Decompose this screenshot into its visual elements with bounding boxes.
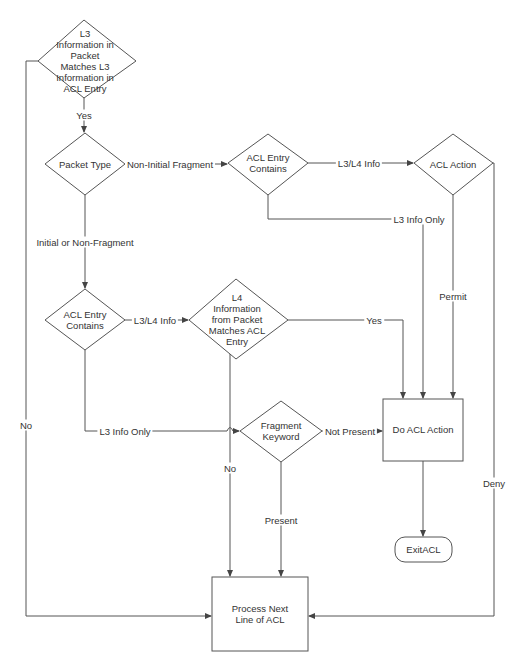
edge-label-l3-info-only-mid: L3 Info Only xyxy=(97,426,152,437)
edge-label-no-left: No xyxy=(18,420,34,431)
l3-match-label: L3 Information in Packet Matches L3 Info… xyxy=(56,36,114,86)
edge-l3-info-only-mid xyxy=(85,350,239,431)
do-acl-action-label: Do ACL Action xyxy=(383,421,463,437)
edge-label-l4-no: No xyxy=(222,463,238,474)
edge-label-non-initial-fragment: Non-Initial Fragment xyxy=(125,159,215,170)
packet-type-label: Packet Type xyxy=(55,156,115,172)
exit-acl-label: ExitACL xyxy=(395,541,452,557)
edge-label-l3l4-info-mid: L3/L4 Info xyxy=(132,315,178,326)
edge-label-l4-yes: Yes xyxy=(364,315,384,326)
edge-l4-yes xyxy=(288,320,403,398)
acl-entry-contains-top-label: ACL Entry Contains xyxy=(244,150,292,176)
fragment-keyword-label: Fragment Keyword xyxy=(255,418,307,444)
l4-match-label: L4 Information from Packet Matches ACL E… xyxy=(208,296,266,342)
edge-label-initial-or-non-fragment: Initial or Non-Fragment xyxy=(34,237,135,248)
edge-no-left xyxy=(26,61,211,616)
edge-label-not-present: Not Present xyxy=(323,426,377,437)
edge-label-l3-info-only-top: L3 Info Only xyxy=(391,214,446,225)
edge-label-l3l4-info-top: L3/L4 Info xyxy=(336,158,382,169)
edge-l3-info-only-top xyxy=(268,195,423,398)
edge-label-present: Present xyxy=(263,515,300,526)
acl-entry-contains-mid-label: ACL Entry Contains xyxy=(61,307,109,333)
edge-label-yes-top: Yes xyxy=(74,110,94,121)
process-next-line-label: Process Next Line of ACL xyxy=(222,601,298,627)
edge-label-permit: Permit xyxy=(437,291,468,302)
edge-label-deny: Deny xyxy=(481,478,507,489)
acl-action-label: ACL Action xyxy=(423,156,483,172)
